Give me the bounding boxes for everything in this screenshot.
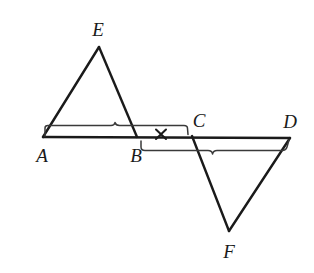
brace-BD [141,140,289,154]
vertex-label-a: A [36,146,48,165]
geometry-canvas [0,0,314,273]
vertex-label-f: F [223,242,235,261]
vertex-label-e: E [92,20,104,39]
geometry-figure: A B C D E F [0,0,314,273]
segment-FD [229,138,290,231]
vertex-label-c: C [193,111,206,130]
segment-AE [43,47,99,137]
vertex-label-b: B [130,146,142,165]
segment-baseline-AD [43,137,290,138]
segment-EB [99,47,137,137]
vertex-label-d: D [283,112,297,131]
